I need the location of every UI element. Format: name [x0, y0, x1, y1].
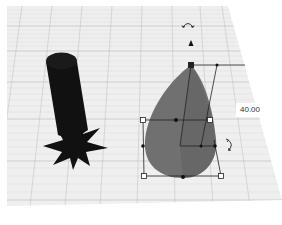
dimension-input[interactable]: 40.00: [236, 103, 264, 117]
center-point: [174, 118, 178, 122]
right-handle[interactable]: [208, 118, 213, 123]
height-guide-point: [200, 145, 203, 148]
bottom-left-handle[interactable]: [142, 174, 147, 179]
top-handle[interactable]: [188, 62, 194, 68]
left-handle[interactable]: [141, 118, 146, 123]
3d-viewport[interactable]: 40.00: [0, 0, 282, 225]
right-mid-point[interactable]: [213, 144, 217, 148]
bottom-right-handle[interactable]: [219, 174, 224, 179]
bottom-center-handle[interactable]: [181, 175, 185, 179]
left-mid-point[interactable]: [141, 144, 145, 148]
width-guide-point: [216, 64, 219, 67]
